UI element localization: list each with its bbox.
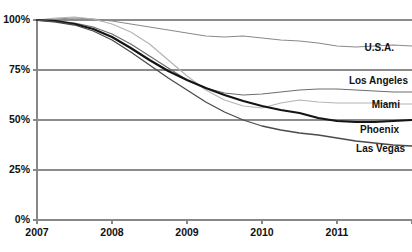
series-line-u-s-a (37, 18, 412, 47)
series-label-las-vegas: Las Vegas (356, 143, 405, 154)
series-inline-labels: U.S.A.Los AngelesMiamiPhoenixLas Vegas (349, 42, 409, 154)
y-axis-label-0: 0% (15, 213, 31, 225)
chart-canvas: 0%25%50%75%100% 20072008200920102011 U.S… (0, 0, 412, 252)
y-axis-label-50: 50% (9, 113, 31, 125)
y-axis-label-100: 100% (3, 13, 31, 25)
x-axis-label-2008: 2008 (100, 226, 124, 238)
x-axis-label-2007: 2007 (25, 226, 49, 238)
gridlines (37, 20, 412, 220)
line-chart: 0%25%50%75%100% 20072008200920102011 U.S… (0, 0, 412, 252)
y-axis-label-25: 25% (9, 163, 31, 175)
x-axis-label-2011: 2011 (326, 226, 349, 238)
y-axis-label-75: 75% (9, 63, 31, 75)
x-axis-tick-labels: 20072008200920102011 (25, 226, 348, 238)
series-label-phoenix: Phoenix (360, 124, 399, 135)
series-label-miami: Miami (372, 99, 401, 110)
series-line-phoenix (37, 20, 412, 122)
x-axis-label-2009: 2009 (175, 226, 199, 238)
x-axis-tick-marks (37, 220, 412, 224)
series-label-u-s-a: U.S.A. (365, 42, 395, 53)
y-axis-tick-labels: 0%25%50%75%100% (3, 13, 31, 225)
x-axis-label-2010: 2010 (250, 226, 274, 238)
series-label-los-angeles: Los Angeles (349, 75, 409, 86)
